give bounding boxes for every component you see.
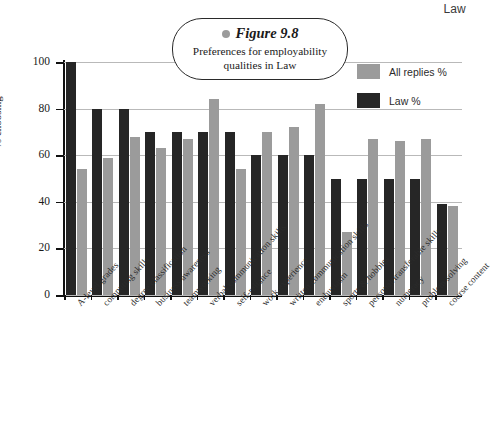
x-axis-tick [91, 295, 93, 300]
y-axis-tick-label: 40 [10, 195, 50, 207]
legend-label-law: Law % [389, 95, 421, 107]
bar-law [66, 62, 76, 295]
bullet-dot-icon [222, 30, 230, 38]
figure-caption: Preferences for employability qualities … [173, 44, 347, 72]
legend-swatch-icon-all-replies [357, 64, 380, 79]
y-axis-title: % choosing [0, 96, 3, 148]
x-axis-tick [329, 295, 331, 300]
y-axis-tick [56, 155, 64, 157]
figure-number: Figure 9.8 [236, 25, 299, 42]
x-axis-tick [276, 295, 278, 300]
bar-law [145, 132, 155, 295]
y-axis-tick-label: 60 [10, 148, 50, 160]
y-axis-tick [56, 295, 64, 297]
x-axis-tick [409, 295, 411, 300]
bar-law [172, 132, 182, 295]
bar-all-replies [77, 169, 87, 295]
bar-law [92, 109, 102, 295]
chart-legend: All replies % Law % [357, 64, 477, 122]
x-axis-tick [382, 295, 384, 300]
legend-item-law: Law % [357, 93, 477, 108]
legend-item-all-replies: All replies % [357, 64, 477, 79]
legend-label-all-replies: All replies % [389, 66, 447, 78]
y-axis-tick [56, 62, 64, 64]
figure-title-callout: Figure 9.8 Preferences for employability… [172, 18, 348, 80]
y-axis-tick [56, 202, 64, 204]
bar-law [225, 132, 235, 295]
y-axis-tick [56, 248, 64, 250]
x-axis-tick [170, 295, 172, 300]
x-axis-tick [64, 295, 66, 300]
bar-group [66, 62, 93, 295]
x-axis-tick [435, 295, 437, 300]
legend-swatch-icon-law [357, 93, 380, 108]
x-axis-tick [197, 295, 199, 300]
figure-caption-line-1: Preferences for employability [173, 44, 347, 58]
x-axis-tick [223, 295, 225, 300]
x-axis-tick [356, 295, 358, 300]
x-axis-tick [144, 295, 146, 300]
y-axis-tick-label: 100 [10, 55, 50, 67]
y-axis-tick-label: 0 [10, 288, 50, 300]
y-axis-tick-label: 80 [10, 102, 50, 114]
figure-caption-line-2: qualities in Law [173, 58, 347, 72]
y-axis-tick [56, 109, 64, 111]
bar-law [198, 132, 208, 295]
x-axis-tick [303, 295, 305, 300]
y-axis-tick-label: 20 [10, 241, 50, 253]
x-axis-tick [117, 295, 119, 300]
bar-group [92, 62, 119, 295]
x-axis-tick [250, 295, 252, 300]
figure-number-line: Figure 9.8 [173, 25, 347, 42]
bar-all-replies [421, 139, 431, 295]
